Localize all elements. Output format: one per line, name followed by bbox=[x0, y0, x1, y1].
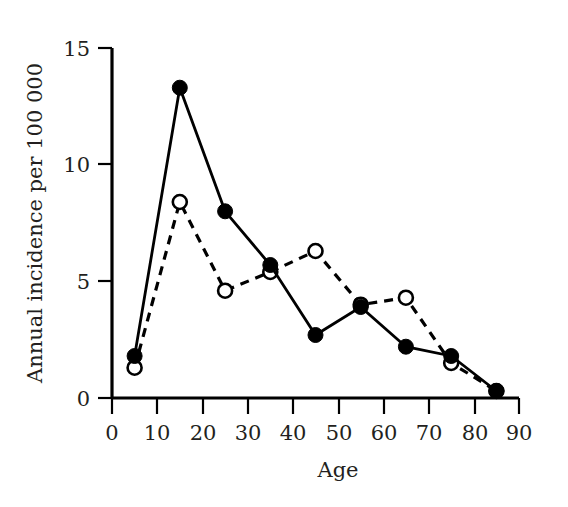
y-axis-title: Annual incidence per 100 000 bbox=[23, 63, 47, 384]
data-point-filled-circle-age-65 bbox=[398, 339, 413, 354]
x-tick-label-0: 0 bbox=[105, 421, 118, 445]
x-tick-label-70: 70 bbox=[416, 421, 443, 445]
data-point-filled-circle-age-25 bbox=[218, 204, 233, 219]
x-axis-title: Age bbox=[316, 458, 358, 482]
data-point-open-circle-age-65 bbox=[399, 291, 413, 305]
data-point-open-circle-age-45 bbox=[309, 244, 323, 258]
x-tick-label-90: 90 bbox=[506, 421, 533, 445]
data-point-filled-circle-age-55 bbox=[353, 300, 368, 315]
incidence-by-age-line-chart: 15 10 5 0 0 10 20 30 40 50 60 70 80 90 A… bbox=[0, 0, 568, 507]
data-point-open-circle-age-25 bbox=[218, 284, 232, 298]
x-tick-label-60: 60 bbox=[371, 421, 398, 445]
x-tick-label-80: 80 bbox=[462, 421, 489, 445]
data-point-open-circle-age-15 bbox=[173, 195, 187, 209]
y-tick-label-5: 5 bbox=[77, 270, 90, 294]
data-point-filled-circle-age-85 bbox=[489, 384, 504, 399]
data-point-filled-circle-age-75 bbox=[444, 349, 459, 364]
x-tick-label-40: 40 bbox=[280, 421, 307, 445]
x-tick-label-50: 50 bbox=[326, 421, 353, 445]
x-tick-label-20: 20 bbox=[190, 421, 217, 445]
data-point-filled-circle-age-45 bbox=[308, 328, 323, 343]
x-tick-label-30: 30 bbox=[235, 421, 262, 445]
y-tick-label-0: 0 bbox=[77, 387, 90, 411]
y-tick-label-10: 10 bbox=[63, 153, 90, 177]
y-tick-label-15: 15 bbox=[63, 37, 90, 61]
data-point-filled-circle-age-35 bbox=[263, 258, 278, 273]
data-point-filled-circle-age-5 bbox=[127, 349, 142, 364]
x-tick-label-10: 10 bbox=[144, 421, 171, 445]
data-point-filled-circle-age-15 bbox=[172, 80, 187, 95]
